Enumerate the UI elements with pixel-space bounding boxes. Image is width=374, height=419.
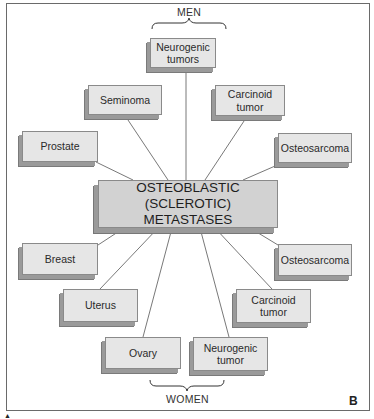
- node-text-line1: Osteosarcoma: [281, 254, 349, 267]
- node-seminoma: Seminoma: [88, 85, 162, 115]
- node-carcinoid-tumor-men: Carcinoidtumor: [215, 85, 285, 116]
- panel-letter: B: [349, 394, 358, 408]
- node-breast: Breast: [22, 243, 98, 275]
- corner-arrow-icon: ▲: [4, 412, 11, 419]
- men-brace: [152, 18, 226, 29]
- node-text-line2: tumor: [237, 101, 264, 113]
- center-text-line2: METASTASES: [144, 212, 233, 227]
- node-neurogenic-tumor-women: Neurogenictumor: [193, 337, 268, 371]
- node-prostate: Prostate: [22, 131, 98, 162]
- node-text-line1: Osteosarcoma: [281, 142, 349, 155]
- node-osteosarcoma-women: Osteosarcoma: [278, 244, 352, 276]
- node-uterus: Uterus: [63, 289, 138, 322]
- node-text-line1: Neurogenic: [156, 41, 210, 53]
- women-brace: [150, 380, 224, 391]
- center-text-line1: OSTEOBLASTIC (SCLEROTIC): [136, 180, 240, 211]
- women-label: WOMEN: [166, 393, 209, 405]
- node-carcinoid-tumor-women: Carcinoidtumor: [236, 289, 311, 323]
- node-text-line1: Prostate: [40, 140, 79, 153]
- node-ovary: Ovary: [105, 337, 181, 369]
- central-node-osteoblastic-metastases: OSTEOBLASTIC (SCLEROTIC)METASTASES: [98, 180, 278, 228]
- node-text-line1: Carcinoid: [251, 294, 295, 306]
- men-label: MEN: [177, 6, 201, 18]
- node-text-line1: Breast: [45, 253, 75, 266]
- node-text-line2: tumor: [260, 306, 287, 318]
- node-text-line1: Seminoma: [100, 94, 150, 107]
- node-text-line1: Uterus: [85, 299, 116, 312]
- node-text-line1: Ovary: [129, 347, 157, 360]
- node-text-line1: Neurogenic: [204, 342, 258, 354]
- node-neurogenic-tumors-men: Neurogenictumors: [150, 38, 216, 68]
- node-osteosarcoma-men: Osteosarcoma: [278, 133, 352, 163]
- node-text-line1: Carcinoid: [228, 88, 272, 100]
- node-text-line2: tumors: [167, 53, 199, 65]
- node-text-line2: tumor: [217, 354, 244, 366]
